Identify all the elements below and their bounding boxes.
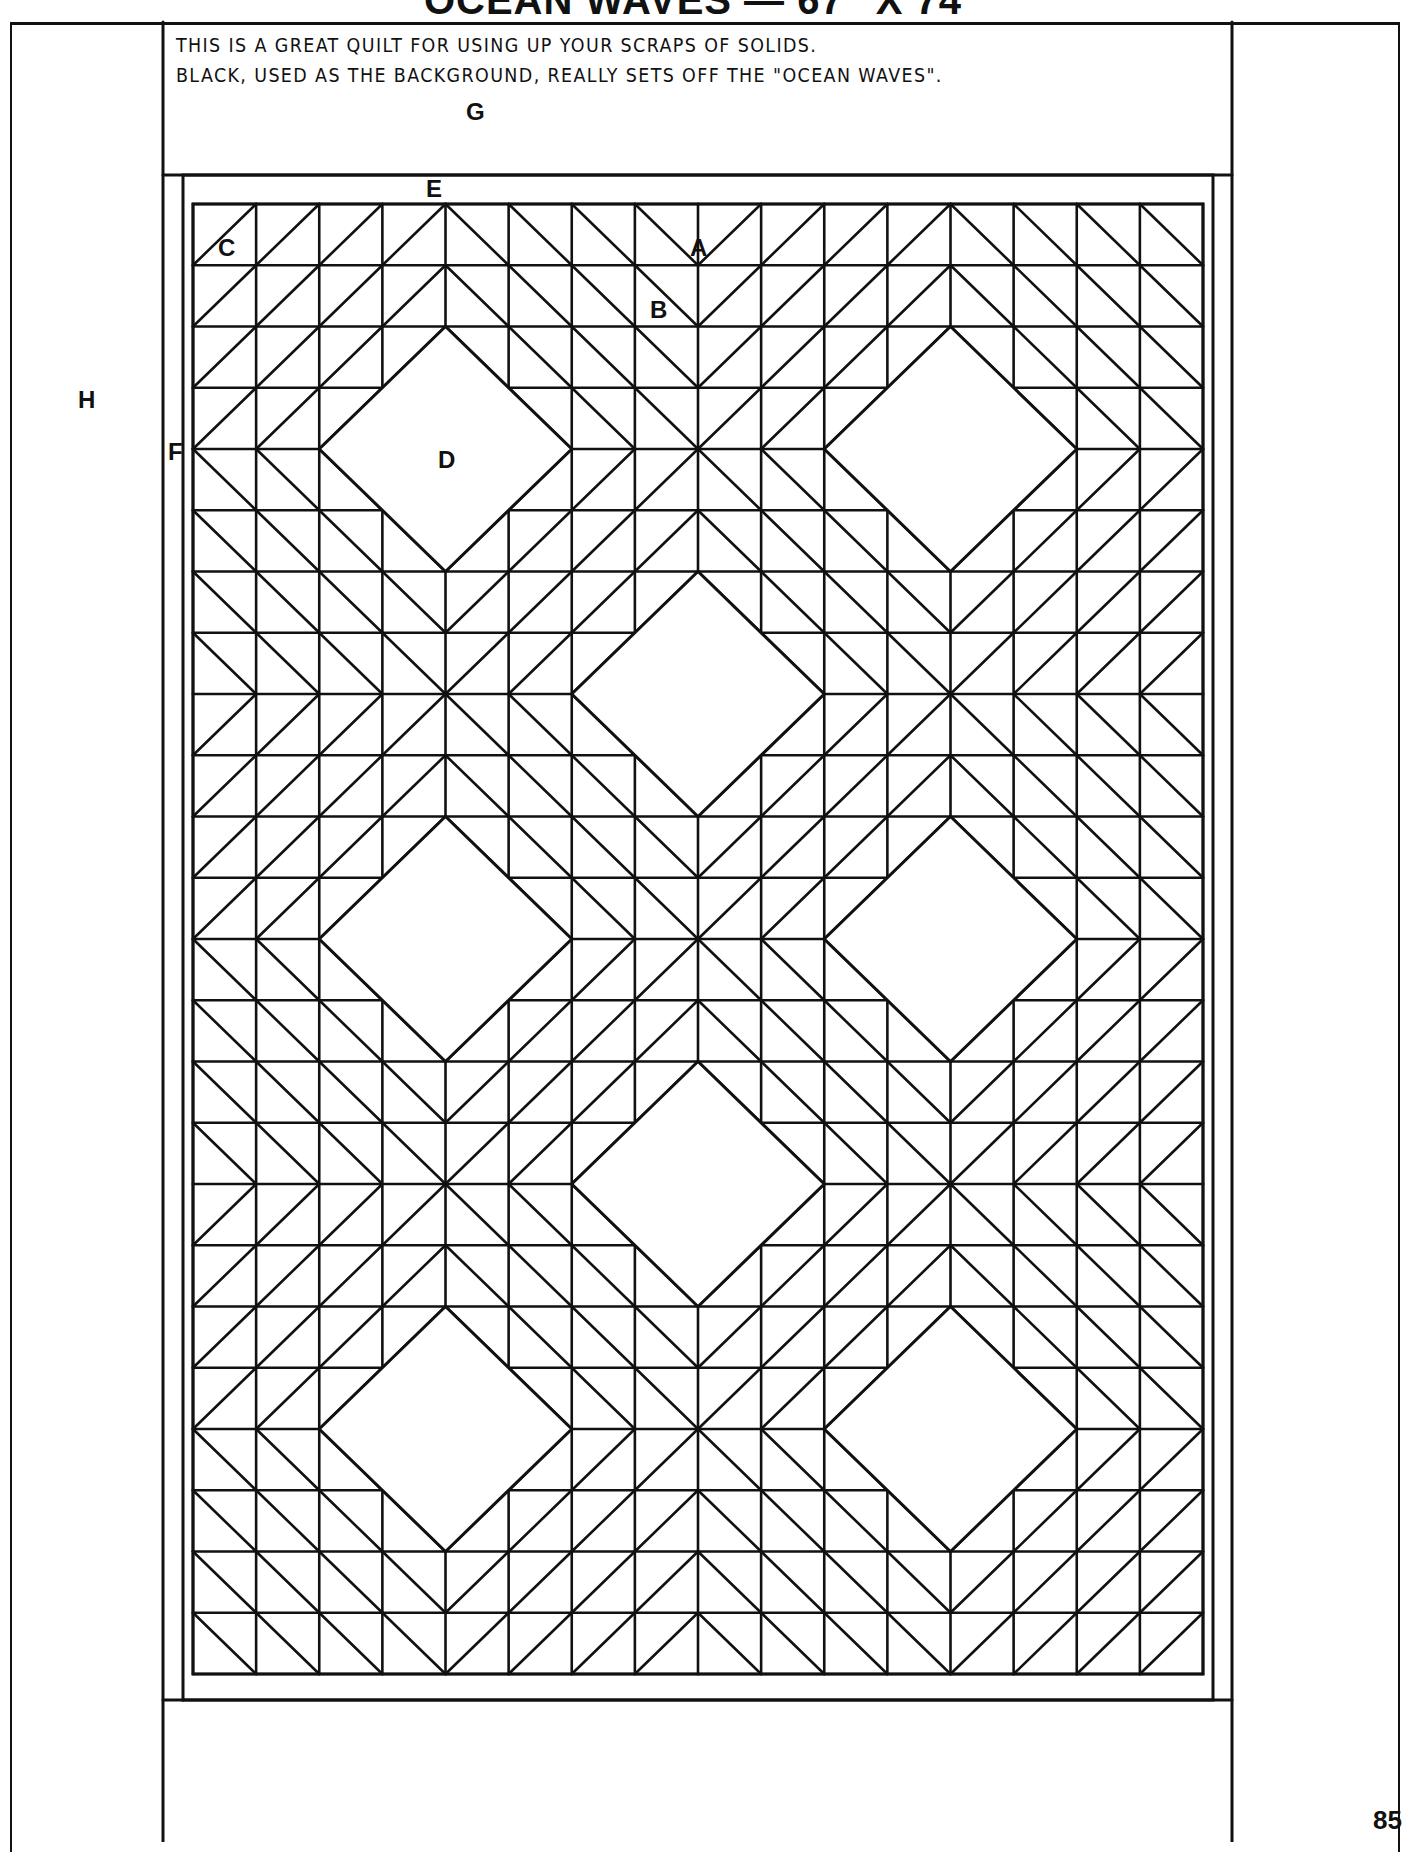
label-h: H (78, 386, 95, 414)
label-b: B (650, 296, 667, 324)
label-g: G (466, 98, 485, 126)
label-d: D (438, 446, 455, 474)
label-a: A (690, 234, 707, 262)
label-c: C (218, 234, 235, 262)
label-f: F (168, 438, 183, 466)
page-number: 85 (1373, 1805, 1402, 1836)
label-e: E (426, 178, 442, 200)
